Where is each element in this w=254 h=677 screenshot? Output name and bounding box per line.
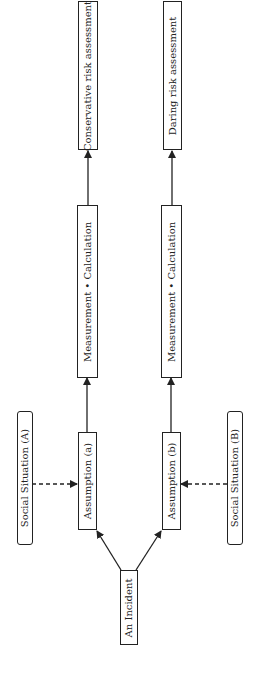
measurement-calculation-a-label: Measurement • Calculation xyxy=(83,221,93,361)
social-situation-a-label: Social Situation (A) xyxy=(20,429,30,527)
daring-risk-assessment-box: Daring risk assessment xyxy=(163,1,182,150)
assumption-a-box: Assumption (a) xyxy=(78,432,97,530)
daring-risk-assessment-label: Daring risk assessment xyxy=(168,16,178,135)
arrow-incident-to-assumption-a xyxy=(97,531,121,570)
assumption-a-label: Assumption (a) xyxy=(83,443,93,519)
incident-label: An Incident xyxy=(124,578,134,637)
assumption-b-label: Assumption (b) xyxy=(167,443,177,520)
measurement-calculation-b-box: Measurement • Calculation xyxy=(161,205,182,378)
social-situation-a-box: Social Situation (A) xyxy=(17,411,33,545)
assumption-b-box: Assumption (b) xyxy=(162,432,181,530)
incident-box: An Incident xyxy=(120,570,138,645)
social-situation-b-box: Social Situation (B) xyxy=(227,411,243,545)
measurement-calculation-a-box: Measurement • Calculation xyxy=(77,205,98,378)
measurement-calculation-b-label: Measurement • Calculation xyxy=(167,221,177,361)
social-situation-b-label: Social Situation (B) xyxy=(230,429,240,528)
risk-assessment-flow-diagram: Conservative risk assessment Daring risk… xyxy=(0,0,254,677)
conservative-risk-assessment-box: Conservative risk assessment xyxy=(78,1,98,150)
arrow-incident-to-assumption-b xyxy=(136,531,161,570)
conservative-risk-assessment-label: Conservative risk assessment xyxy=(83,0,93,150)
